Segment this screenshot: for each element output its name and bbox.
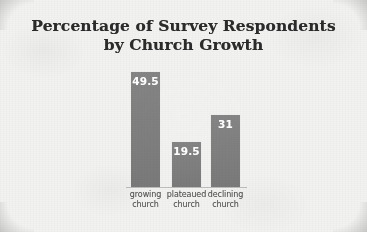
category-label-declining-church: declining church	[203, 190, 248, 209]
bar-chart-figure: Percentage of Survey Respondents by Chur…	[0, 0, 367, 232]
category-label-growing-church: growing church	[123, 190, 168, 209]
bar-value-label-plateaued-church: 19.5	[172, 145, 201, 157]
plot-area: 49.5 19.5 31 growing church plateaued ch…	[0, 0, 367, 232]
bar-value-label-declining-church: 31	[211, 118, 240, 130]
bar-growing-church: 49.5	[131, 72, 160, 187]
category-label-growing-church-line-1: growing	[123, 190, 168, 200]
category-label-declining-church-line-1: declining	[203, 190, 248, 200]
bar-declining-church: 31	[211, 115, 240, 187]
category-label-declining-church-line-2: church	[203, 200, 248, 210]
bar-value-label-growing-church: 49.5	[131, 75, 160, 87]
x-axis-baseline	[126, 187, 247, 188]
bar-plateaued-church: 19.5	[172, 142, 201, 187]
scanned-chart-page: Percentage of Survey Respondents by Chur…	[0, 0, 367, 232]
category-label-growing-church-line-2: church	[123, 200, 168, 210]
